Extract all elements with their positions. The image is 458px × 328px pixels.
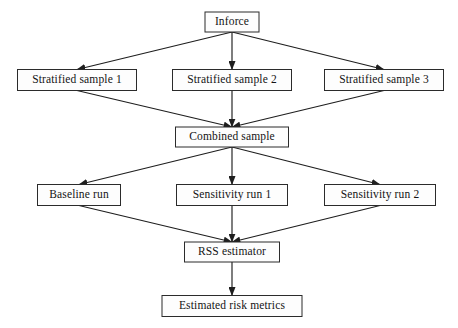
edge-baseline-to-rss [79,206,232,243]
node-label-sensitivity2: Sensitivity run 2 [341,188,420,201]
node-stratified2[interactable]: Stratified sample 2 [173,70,292,91]
node-layer: InforceStratified sample 1Stratified sam… [18,12,444,317]
edge-combined-to-sensitivity2 [232,147,380,185]
edge-sensitivity2-to-rss [232,206,380,243]
node-inforce[interactable]: Inforce [205,12,259,32]
node-label-stratified1: Stratified sample 1 [32,73,122,86]
edge-inforce-to-stratified3 [232,32,384,70]
node-label-stratified3: Stratified sample 3 [339,73,429,86]
node-stratified3[interactable]: Stratified sample 3 [325,70,444,91]
node-label-sensitivity1: Sensitivity run 1 [193,188,272,201]
edge-stratified1-to-combined [77,91,232,128]
node-combined[interactable]: Combined sample [176,127,289,147]
flowchart-canvas: InforceStratified sample 1Stratified sam… [0,0,458,328]
edge-inforce-to-stratified1 [77,32,232,70]
node-baseline[interactable]: Baseline run [38,185,121,206]
node-stratified1[interactable]: Stratified sample 1 [18,70,137,91]
edge-stratified3-to-combined [232,91,384,128]
node-sensitivity2[interactable]: Sensitivity run 2 [325,185,436,206]
node-label-estimated: Estimated risk metrics [179,299,286,311]
node-rss[interactable]: RSS estimator [185,242,280,262]
node-label-baseline: Baseline run [49,188,109,200]
node-label-rss: RSS estimator [198,245,266,257]
node-estimated[interactable]: Estimated risk metrics [162,296,302,317]
node-sensitivity1[interactable]: Sensitivity run 1 [177,185,288,206]
node-label-inforce: Inforce [215,15,249,27]
node-label-stratified2: Stratified sample 2 [187,73,277,86]
edge-combined-to-baseline [79,147,232,185]
node-label-combined: Combined sample [189,130,275,143]
